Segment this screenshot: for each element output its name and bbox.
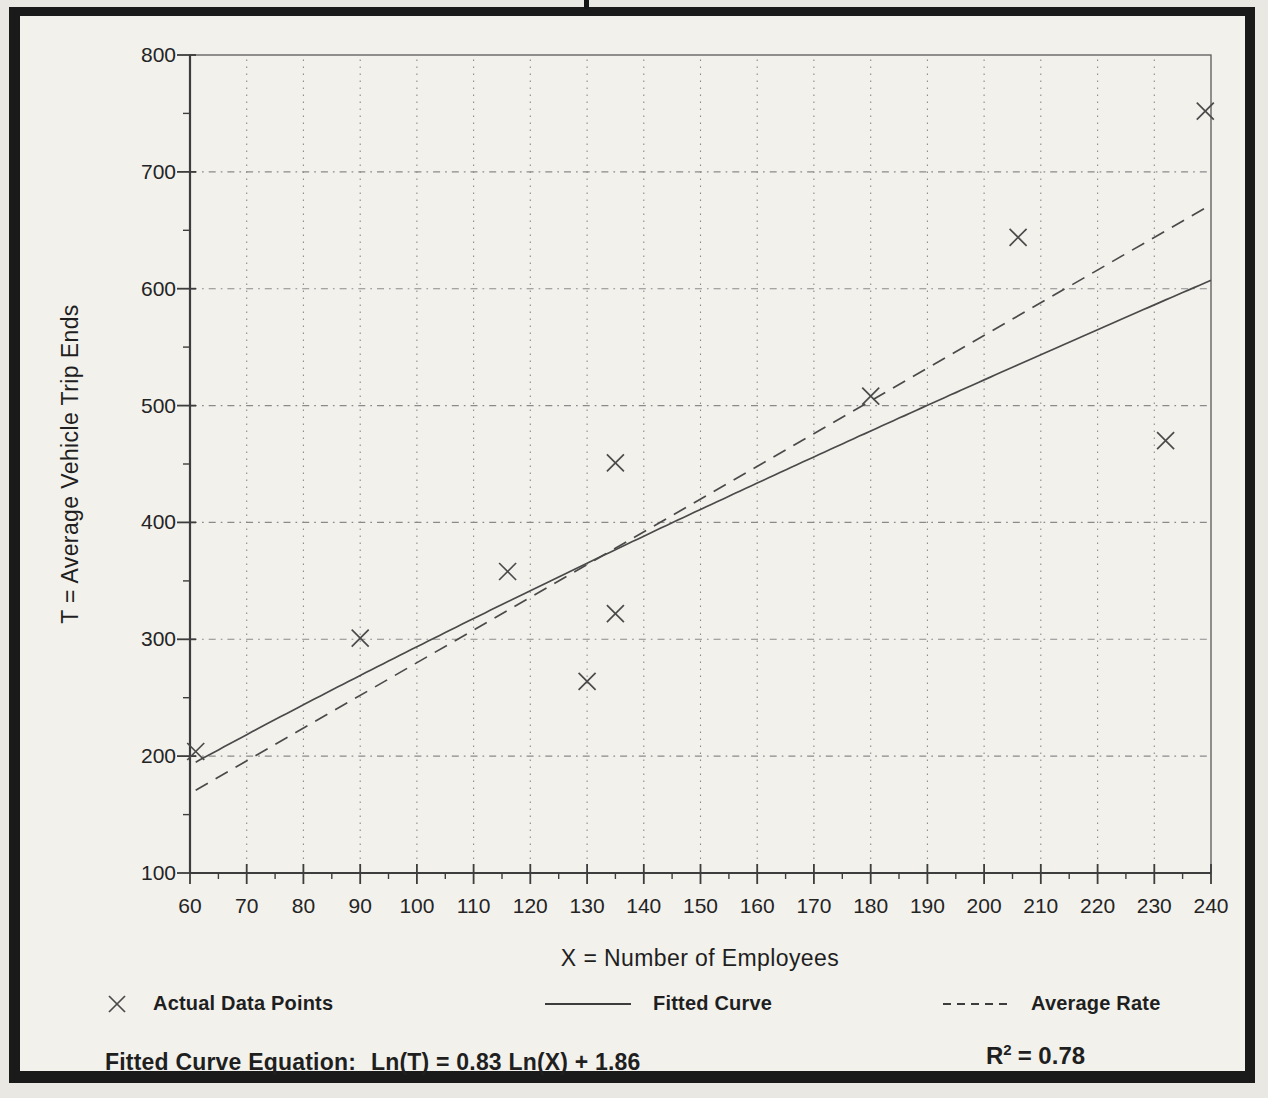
svg-text:90: 90 xyxy=(349,894,372,917)
equation-prefix: Fitted Curve Equation: xyxy=(105,1049,356,1075)
legend-label: Average Rate xyxy=(1031,992,1161,1015)
data-point-x-marker xyxy=(1010,229,1027,246)
svg-text:240: 240 xyxy=(1193,894,1228,917)
svg-text:150: 150 xyxy=(683,894,718,917)
svg-text:120: 120 xyxy=(513,894,548,917)
equation-formula: Ln(T) = 0.83 Ln(X) + 1.86 xyxy=(371,1049,641,1075)
scanned-trip-generation-figure: 6070809010011012013014015016017018019020… xyxy=(0,0,1268,1098)
data-point-x-marker xyxy=(1157,432,1174,449)
svg-text:140: 140 xyxy=(626,894,661,917)
svg-text:220: 220 xyxy=(1080,894,1115,917)
svg-text:190: 190 xyxy=(910,894,945,917)
svg-text:210: 210 xyxy=(1023,894,1058,917)
y-axis-ticks xyxy=(177,55,196,873)
legend-item-average-rate: Average Rate xyxy=(942,992,1161,1015)
data-point-x-marker xyxy=(607,605,624,622)
plot-border xyxy=(190,55,1211,873)
svg-text:100: 100 xyxy=(141,861,176,884)
svg-text:230: 230 xyxy=(1137,894,1172,917)
legend-label: Fitted Curve xyxy=(653,992,772,1015)
dashed-line-icon xyxy=(942,999,1014,1009)
data-point-x-marker xyxy=(607,454,624,471)
x-marker-icon xyxy=(106,993,128,1015)
svg-text:200: 200 xyxy=(141,744,176,767)
legend-item-actual-data-points: Actual Data Points xyxy=(106,992,333,1015)
svg-text:400: 400 xyxy=(141,510,176,533)
y-axis-tick-labels: 100200300400500600700800 xyxy=(141,43,176,884)
grid-vertical xyxy=(247,55,1155,873)
data-point-x-marker xyxy=(862,388,879,405)
solid-line-icon xyxy=(544,999,632,1009)
svg-text:800: 800 xyxy=(141,43,176,66)
y-axis-title: T = Average Vehicle Trip Ends xyxy=(57,304,84,624)
svg-text:60: 60 xyxy=(178,894,201,917)
scatter-plot-canvas: 6070809010011012013014015016017018019020… xyxy=(0,0,1268,1098)
svg-text:80: 80 xyxy=(292,894,315,917)
svg-text:200: 200 xyxy=(967,894,1002,917)
legend-item-fitted-curve: Fitted Curve xyxy=(544,992,772,1015)
r-squared-rest: = 0.78 xyxy=(1018,1042,1085,1069)
svg-text:130: 130 xyxy=(570,894,605,917)
x-axis-tick-labels: 6070809010011012013014015016017018019020… xyxy=(178,894,1228,917)
svg-text:500: 500 xyxy=(141,394,176,417)
data-point-x-marker xyxy=(499,563,516,580)
fitted-curve-equation: Fitted Curve Equation:Ln(T) = 0.83 Ln(X)… xyxy=(105,1049,641,1076)
svg-text:600: 600 xyxy=(141,277,176,300)
svg-text:300: 300 xyxy=(141,627,176,650)
r-squared-exponent: 2 xyxy=(1003,1041,1011,1058)
average-rate-line xyxy=(196,205,1211,791)
svg-text:700: 700 xyxy=(141,160,176,183)
legend-label: Actual Data Points xyxy=(153,992,333,1015)
data-point-x-marker xyxy=(352,630,369,647)
svg-text:110: 110 xyxy=(457,894,490,917)
x-axis-title: X = Number of Employees xyxy=(561,945,839,972)
svg-text:180: 180 xyxy=(853,894,888,917)
svg-text:70: 70 xyxy=(235,894,258,917)
svg-text:170: 170 xyxy=(796,894,831,917)
r-squared-value: R2= 0.78 xyxy=(986,1042,1085,1070)
r-squared-base: R xyxy=(986,1042,1003,1069)
svg-text:160: 160 xyxy=(740,894,775,917)
svg-text:100: 100 xyxy=(399,894,434,917)
fitted-curve-line xyxy=(196,280,1211,762)
